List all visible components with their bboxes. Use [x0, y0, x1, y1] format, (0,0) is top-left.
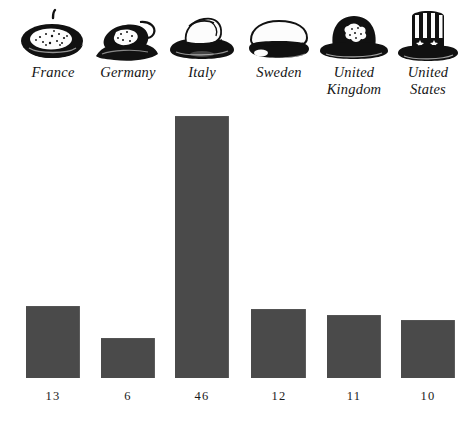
category-label-line2: Kingdom — [327, 81, 382, 97]
bar-italy — [175, 116, 229, 378]
bar-united-states — [401, 320, 455, 378]
category-label-line1: France — [31, 64, 74, 80]
value-label-united-states: 10 — [388, 389, 468, 404]
value-label-germany: 6 — [88, 389, 168, 404]
value-label-france: 13 — [13, 389, 93, 404]
hat-bar-chart: France Germany — [0, 0, 475, 426]
value-label-sweden: 12 — [239, 389, 319, 404]
category-label-france: France — [13, 64, 93, 81]
category-label-line2: States — [410, 81, 446, 97]
category-label-germany: Germany — [88, 64, 168, 81]
value-label-united-kingdom: 11 — [314, 389, 394, 404]
category-label-line1: Italy — [188, 64, 216, 80]
bar-germany — [101, 338, 155, 378]
category-label-united-kingdom: United Kingdom — [314, 64, 394, 98]
student-cap-icon — [239, 4, 319, 64]
value-label-italy: 46 — [162, 389, 242, 404]
uncle-sam-top-hat-icon — [388, 4, 468, 64]
beret-hat-icon — [13, 4, 93, 64]
bar-sweden — [251, 309, 306, 378]
bar-united-kingdom — [327, 315, 381, 378]
category-label-united-states: United States — [388, 64, 468, 98]
category-label-sweden: Sweden — [239, 64, 319, 81]
category-label-line1: Sweden — [256, 64, 302, 80]
bar-france — [26, 306, 80, 378]
category-label-line1: Germany — [100, 64, 155, 80]
fedora-hat-icon — [162, 4, 242, 64]
bowler-hat-icon — [314, 4, 394, 64]
category-label-line1: United — [334, 64, 375, 80]
category-label-italy: Italy — [162, 64, 242, 81]
category-label-line1: United — [408, 64, 449, 80]
tyrolean-hat-icon — [88, 4, 168, 64]
